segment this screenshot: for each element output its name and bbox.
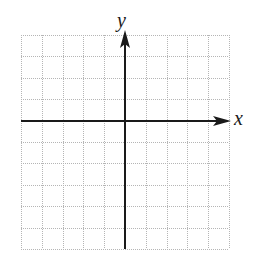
- coordinate-plane: [0, 0, 253, 257]
- x-axis-label: x: [234, 108, 243, 128]
- axes: [21, 30, 231, 249]
- y-axis-label: y: [117, 10, 126, 30]
